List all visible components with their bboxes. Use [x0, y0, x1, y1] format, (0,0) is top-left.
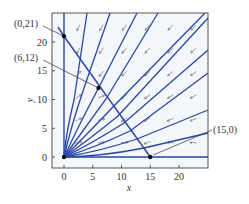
- x-axis-label: x: [126, 182, 132, 193]
- equilibrium-point: [62, 34, 66, 38]
- equilibrium-point: [96, 86, 100, 90]
- point-label-15-0: (15,0): [213, 124, 237, 136]
- x-tick-label: 10: [117, 171, 127, 182]
- equilibrium-point: [62, 155, 66, 159]
- y-tick-label: 0: [42, 152, 47, 163]
- equilibrium-point: [148, 155, 152, 159]
- y-tick-label: 10: [37, 94, 47, 105]
- point-label-0-21: (0,21): [14, 18, 38, 30]
- y-tick-label: 20: [37, 37, 47, 48]
- y-tick-label: 5: [42, 123, 47, 134]
- phase-portrait-figure: 0510152005101520 (0,21) (6,12) (15,0) x …: [0, 0, 249, 204]
- y-axis-label: y: [24, 97, 35, 103]
- y-tick-label: 15: [37, 65, 47, 76]
- x-tick-label: 0: [62, 171, 67, 182]
- x-tick-label: 20: [174, 171, 184, 182]
- x-tick-label: 15: [145, 171, 155, 182]
- point-label-6-12: (6,12): [14, 52, 38, 64]
- x-tick-label: 5: [90, 171, 95, 182]
